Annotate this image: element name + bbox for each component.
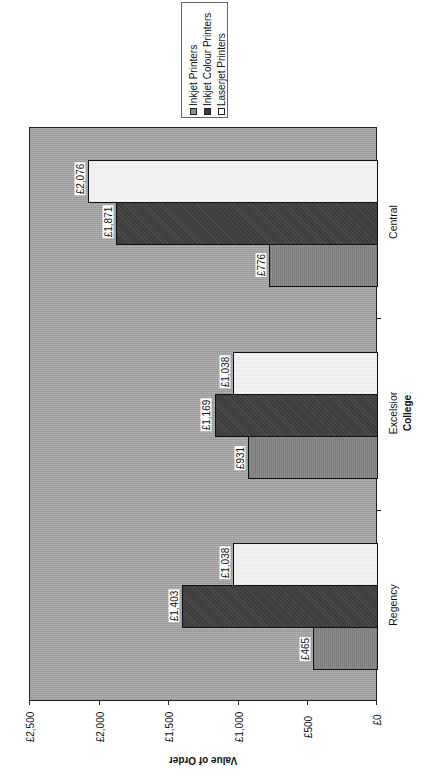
category-label-central: Central [387, 205, 399, 239]
legend-label: Inkjet Printers [188, 45, 199, 106]
bar-regency-inkjet [313, 627, 378, 670]
value-tick-label: £2,000 [95, 712, 106, 743]
legend-swatch-laserjet-icon [218, 108, 225, 115]
bar-regency-inkjet-colour [182, 585, 378, 628]
bar-regency-laserjet [233, 543, 378, 586]
data-label-regency-laserjet: £1,038 [220, 547, 231, 580]
value-tick-label: £2,500 [25, 712, 36, 743]
chart-legend: Inkjet Printers Inkjet Colour Printers L… [181, 2, 228, 118]
value-tick-label: £0 [372, 714, 383, 725]
category-label-regency: Regency [387, 584, 399, 625]
value-tick-mark [168, 701, 169, 705]
value-tick-mark [238, 701, 239, 705]
data-label-excelsior-inkjet-colour: £1,169 [201, 399, 212, 432]
value-tick-label: £500 [303, 716, 314, 738]
bar-central-inkjet-colour [116, 202, 378, 245]
value-tick-mark [376, 701, 377, 705]
data-label-regency-inkjet: £465 [300, 637, 311, 661]
legend-item-laserjet: Laserjet Printers [216, 33, 227, 115]
value-tick-mark [307, 701, 308, 705]
bar-excelsior-inkjet-colour [215, 394, 378, 437]
legend-swatch-inkjet-icon [190, 108, 197, 115]
bar-excelsior-laserjet [233, 352, 378, 395]
data-label-central-laserjet: £2,076 [75, 163, 86, 196]
legend-label: Inkjet Colour Printers [202, 13, 213, 106]
data-label-excelsior-inkjet: £931 [235, 446, 246, 470]
category-axis-title: College [402, 395, 413, 431]
category-tick-mark [377, 510, 381, 511]
data-label-central-inkjet-colour: £1,871 [103, 206, 114, 239]
data-label-central-inkjet: £776 [256, 253, 267, 277]
data-label-regency-inkjet-colour: £1,403 [169, 590, 180, 623]
value-tick-mark [29, 701, 30, 705]
bar-excelsior-inkjet [248, 436, 378, 479]
legend-item-inkjet: Inkjet Printers [188, 45, 199, 115]
category-tick-mark [377, 318, 381, 319]
data-label-excelsior-laserjet: £1,038 [220, 356, 231, 389]
legend-label: Laserjet Printers [216, 33, 227, 106]
bar-central-inkjet [269, 244, 378, 287]
category-label-excelsior: Excelsior [387, 392, 399, 435]
legend-item-inkjet-colour: Inkjet Colour Printers [202, 13, 213, 115]
bar-central-laserjet [88, 160, 378, 203]
value-tick-mark [99, 701, 100, 705]
value-tick-label: £1,500 [164, 712, 175, 743]
legend-swatch-inkjet-colour-icon [204, 108, 211, 115]
value-tick-label: £1,000 [234, 712, 245, 743]
value-axis-title: Value of Order [169, 755, 237, 766]
